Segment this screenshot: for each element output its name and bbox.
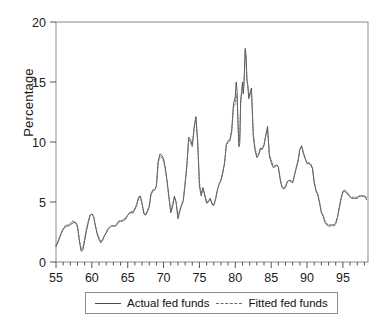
series-line-actual-fed-funds: [56, 48, 367, 251]
chart-legend: Actual fed funds Fitted fed funds: [85, 292, 338, 314]
dotted-line-swatch-icon: [216, 300, 242, 307]
y-axis-title: Percentage: [21, 53, 36, 153]
chart-figure: 55606570758085909505101520 Percentage Ac…: [0, 0, 386, 325]
x-axis-tick-label: 75: [192, 271, 206, 285]
line-chart-canvas: 55606570758085909505101520: [0, 0, 386, 286]
plot-area: 55606570758085909505101520 Percentage: [0, 0, 386, 286]
plot-frame: [56, 22, 368, 262]
solid-line-swatch-icon: [95, 300, 121, 307]
y-axis-tick-label: 20: [32, 16, 46, 30]
x-axis-tick-label: 65: [121, 271, 135, 285]
legend-label-fitted: Fitted fed funds: [248, 297, 327, 309]
y-axis-tick-label: 5: [39, 196, 46, 210]
y-axis-tick-label: 0: [39, 256, 46, 270]
x-axis-tick-label: 85: [264, 271, 278, 285]
legend-item-fitted: Fitted fed funds: [216, 297, 327, 309]
legend-item-actual: Actual fed funds: [95, 297, 209, 309]
x-axis-tick-label: 70: [157, 271, 171, 285]
x-axis-tick-label: 95: [336, 271, 350, 285]
x-axis-tick-label: 90: [300, 271, 314, 285]
legend-label-actual: Actual fed funds: [127, 297, 209, 309]
x-axis-tick-label: 60: [85, 271, 99, 285]
x-axis-tick-label: 80: [228, 271, 242, 285]
series-line-fitted-fed-funds: [56, 52, 367, 249]
x-axis-tick-label: 55: [49, 271, 63, 285]
